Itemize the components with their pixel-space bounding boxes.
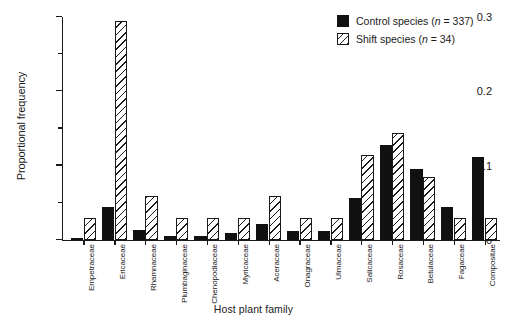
legend-swatch-shift-icon xyxy=(337,33,349,45)
bar-shift xyxy=(145,196,157,240)
bar-control xyxy=(441,207,453,240)
category-label: Rosaceae xyxy=(396,244,405,280)
chart-figure: Proportional frequency 00.10.20.3 Empetr… xyxy=(0,0,507,326)
y-axis-title: Proportional frequency xyxy=(15,36,27,216)
category-label: Betulaceae xyxy=(426,244,435,284)
bar-shift xyxy=(176,218,188,240)
x-tick xyxy=(330,240,331,245)
x-tick xyxy=(269,240,270,245)
bar-control xyxy=(287,231,299,240)
bar-control xyxy=(225,233,237,240)
x-tick xyxy=(176,240,177,245)
x-tick xyxy=(238,240,239,245)
legend-entry: Control species (n = 337) xyxy=(337,12,474,30)
bar-control xyxy=(102,207,114,240)
bar-control xyxy=(164,236,176,240)
legend-label: Shift species (n = 34) xyxy=(356,33,455,45)
bar-control xyxy=(349,198,361,240)
bar-shift xyxy=(392,133,404,240)
bar-control xyxy=(133,230,145,240)
plot-area: 00.10.20.3 EmpetraceaeEricaceaeRhamnacea… xyxy=(62,17,500,240)
y-tick-major xyxy=(56,90,62,91)
y-tick-minor xyxy=(58,127,62,128)
bar-control xyxy=(71,238,83,240)
bar-shift xyxy=(238,218,250,240)
category-label: Onagraceae xyxy=(303,244,312,288)
y-tick-label: 0.2 xyxy=(477,85,492,97)
x-tick xyxy=(207,240,208,245)
y-tick-major xyxy=(56,239,62,240)
legend-swatch-control-icon xyxy=(337,15,349,27)
x-tick xyxy=(392,240,393,245)
y-tick-minor xyxy=(58,53,62,54)
bar-shift xyxy=(115,21,127,240)
category-label: Myricaceae xyxy=(241,244,250,284)
bar-control xyxy=(380,145,392,240)
legend-entry: Shift species (n = 34) xyxy=(337,30,474,48)
legend-label: Control species (n = 337) xyxy=(356,15,474,27)
bar-shift xyxy=(269,196,281,240)
category-label: Salicaceae xyxy=(365,244,374,283)
bar-control xyxy=(194,236,206,240)
category-label: Fagaceae xyxy=(457,244,466,279)
bar-control xyxy=(256,224,268,240)
bar-shift xyxy=(331,218,343,240)
y-axis-line xyxy=(62,17,63,240)
y-tick-minor xyxy=(58,202,62,203)
x-tick xyxy=(299,240,300,245)
category-label: Empetraceae xyxy=(87,244,96,291)
category-label: Plumbaginaceae xyxy=(180,244,189,303)
x-tick xyxy=(454,240,455,245)
bar-shift xyxy=(84,218,96,240)
category-label: Compositae xyxy=(488,244,497,286)
x-tick xyxy=(485,240,486,245)
bar-shift xyxy=(454,218,466,240)
bar-shift xyxy=(423,177,435,240)
y-tick-major xyxy=(56,16,62,17)
x-tick xyxy=(423,240,424,245)
bar-control xyxy=(410,169,422,240)
category-label: Aceraceae xyxy=(272,244,281,282)
bar-control xyxy=(472,157,484,240)
x-tick xyxy=(145,240,146,245)
y-tick-label: 0.3 xyxy=(477,11,492,23)
category-label: Ulmaceae xyxy=(334,244,343,280)
x-tick xyxy=(361,240,362,245)
bar-shift xyxy=(300,218,312,240)
category-label: Rhamnaceae xyxy=(149,244,158,291)
bar-control xyxy=(318,231,330,240)
y-tick-major xyxy=(56,164,62,165)
x-tick xyxy=(83,240,84,245)
x-axis-title: Host plant family xyxy=(0,303,507,315)
category-label: Chenopodiaceae xyxy=(210,244,219,304)
bar-shift xyxy=(485,218,497,240)
bar-shift xyxy=(207,218,219,240)
chart-legend: Control species (n = 337)Shift species (… xyxy=(337,12,474,48)
bar-shift xyxy=(361,155,373,240)
x-axis-line xyxy=(62,240,500,241)
category-label: Ericaceae xyxy=(118,244,127,279)
x-tick xyxy=(114,240,115,245)
